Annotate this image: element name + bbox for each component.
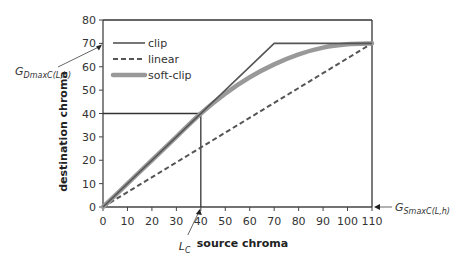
annotation-gdmax: GDmaxC(L,h) <box>15 65 71 80</box>
y-tick-label: 80 <box>82 14 96 27</box>
annotation-gsmax-main: G <box>395 201 404 214</box>
legend-label-linear: linear <box>148 53 180 66</box>
y-tick-label: 60 <box>82 61 96 74</box>
annotation-lc-subscript: C <box>185 246 191 255</box>
annotation-gdmax-subscript: DmaxC(L,h) <box>24 71 72 80</box>
y-tick-label: 50 <box>82 84 96 97</box>
x-tick-label: 110 <box>362 215 383 228</box>
series-group <box>103 43 372 207</box>
arrowhead-gdmax <box>96 44 102 50</box>
annotation-gsmax-subscript: SmaxC(L,h) <box>404 207 450 216</box>
x-tick-label: 30 <box>169 215 183 228</box>
y-tick-label: 10 <box>82 178 96 191</box>
series-line-linear <box>103 43 372 207</box>
annotation-gsmax: GSmaxC(L,h) <box>395 201 450 216</box>
arrowhead-gsmax <box>374 204 380 210</box>
y-tick-label: 30 <box>82 131 96 144</box>
annotation-gdmax-main: G <box>15 65 24 78</box>
annotation-lc: LC <box>179 240 191 255</box>
x-tick-label: 0 <box>100 215 107 228</box>
x-tick-label: 10 <box>120 215 134 228</box>
x-tick-label: 90 <box>316 215 330 228</box>
y-tick-label: 0 <box>89 201 96 214</box>
y-axis-label: destination chroma <box>57 71 70 192</box>
legend: cliplinearsoft-clip <box>113 37 192 82</box>
x-axis-label: source chroma <box>197 237 288 250</box>
x-tick-label: 50 <box>218 215 232 228</box>
x-tick-label: 100 <box>337 215 358 228</box>
axes: 0102030405060708090100110010203040506070… <box>57 14 383 250</box>
y-tick-label: 40 <box>82 108 96 121</box>
legend-label-clip: clip <box>148 37 167 50</box>
x-tick-label: 40 <box>194 215 208 228</box>
x-tick-label: 20 <box>145 215 159 228</box>
chart: 0102030405060708090100110010203040506070… <box>0 0 452 266</box>
y-tick-label: 70 <box>82 37 96 50</box>
legend-label-soft-clip: soft-clip <box>148 69 192 82</box>
x-tick-label: 80 <box>292 215 306 228</box>
y-tick-label: 20 <box>82 154 96 167</box>
x-tick-label: 70 <box>267 215 281 228</box>
x-tick-label: 60 <box>243 215 257 228</box>
annotations: GDmaxC(L,h)LCGSmaxC(L,h) <box>15 44 450 255</box>
